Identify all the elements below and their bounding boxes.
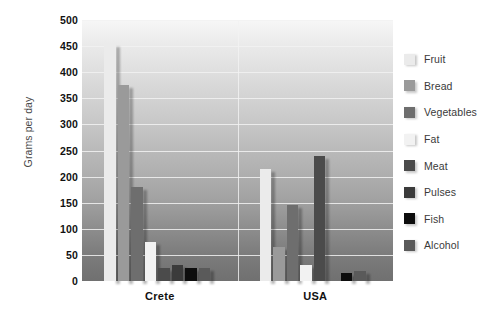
legend-item-meat[interactable]: Meat — [404, 152, 498, 179]
y-axis-tick-label: 50 — [4, 249, 78, 261]
legend-item-alcohol[interactable]: Alcohol — [404, 232, 498, 259]
bar-face — [314, 156, 326, 281]
legend-label: Fat — [424, 133, 439, 145]
legend-swatch-icon — [404, 187, 415, 198]
bar-face — [104, 44, 116, 282]
bar-fat-crete — [145, 242, 157, 281]
group-separator — [238, 20, 239, 281]
legend: FruitBreadVegetablesFatMeatPulsesFishAlc… — [404, 46, 498, 259]
legend-label: Fish — [424, 213, 444, 225]
bar-alcohol-usa — [354, 271, 366, 281]
bar-fat-usa — [300, 265, 312, 281]
legend-swatch-face — [404, 107, 415, 118]
bar-vegetables-usa — [287, 205, 299, 281]
y-axis-tick-label: 500 — [4, 14, 78, 26]
bar-face — [145, 242, 157, 281]
y-axis-tick-label: 0 — [4, 275, 78, 287]
legend-label: Pulses — [424, 186, 456, 198]
plot-area — [82, 20, 393, 281]
bar-face — [300, 265, 312, 281]
bar-face — [172, 265, 184, 281]
legend-swatch-face — [404, 187, 415, 198]
bar-fruit-usa — [260, 169, 272, 281]
bar-shadow — [325, 159, 329, 284]
y-axis-tick-label: 150 — [4, 197, 78, 209]
y-axis-ticks: 050100150200250300350400450500 — [0, 0, 78, 312]
legend-item-bread[interactable]: Bread — [404, 73, 498, 100]
bar-face — [158, 268, 170, 281]
legend-swatch-face — [404, 80, 415, 91]
bar-face — [273, 247, 285, 281]
legend-label: Vegetables — [424, 106, 477, 118]
legend-item-fruit[interactable]: Fruit — [404, 46, 498, 73]
bar-bread-usa — [273, 247, 285, 281]
bar-pulses-crete — [172, 265, 184, 281]
legend-label: Alcohol — [424, 239, 459, 251]
bar-fruit-crete — [104, 44, 116, 282]
legend-swatch-face — [404, 134, 415, 145]
legend-item-fish[interactable]: Fish — [404, 206, 498, 233]
y-axis-tick-label: 200 — [4, 171, 78, 183]
legend-item-fat[interactable]: Fat — [404, 126, 498, 153]
bar-alcohol-crete — [199, 268, 211, 281]
bar-fish-crete — [185, 268, 197, 281]
legend-label: Meat — [424, 160, 448, 172]
bar-face — [354, 271, 366, 281]
legend-swatch-face — [404, 240, 415, 251]
y-axis-tick-label: 250 — [4, 145, 78, 157]
bar-face — [260, 169, 272, 281]
legend-swatch-face — [404, 160, 415, 171]
y-axis-tick-label: 300 — [4, 118, 78, 130]
bar-face — [118, 85, 130, 281]
x-axis-label-crete: Crete — [145, 290, 175, 302]
legend-item-vegetables[interactable]: Vegetables — [404, 99, 498, 126]
y-axis-tick-label: 450 — [4, 40, 78, 52]
bar-face — [185, 268, 197, 281]
legend-item-pulses[interactable]: Pulses — [404, 179, 498, 206]
legend-label: Bread — [424, 80, 453, 92]
legend-swatch-icon — [404, 54, 415, 65]
bar-shadow — [210, 271, 214, 284]
legend-swatch-icon — [404, 160, 415, 171]
bar-bread-crete — [118, 85, 130, 281]
legend-label: Fruit — [424, 53, 446, 65]
legend-swatch-face — [404, 54, 415, 65]
bar-face — [131, 187, 143, 281]
bar-face — [199, 268, 211, 281]
y-axis-tick-label: 400 — [4, 66, 78, 78]
bar-face — [287, 205, 299, 281]
bar-fish-usa — [341, 273, 353, 281]
legend-swatch-face — [404, 213, 415, 224]
legend-swatch-icon — [404, 134, 415, 145]
bar-face — [341, 273, 353, 281]
legend-swatch-icon — [404, 107, 415, 118]
legend-swatch-icon — [404, 240, 415, 251]
y-axis-tick-label: 350 — [4, 92, 78, 104]
x-axis-label-usa: USA — [303, 290, 327, 302]
legend-swatch-icon — [404, 80, 415, 91]
bar-meat-usa — [314, 156, 326, 281]
bar-meat-crete — [158, 268, 170, 281]
y-axis-tick-label: 100 — [4, 223, 78, 235]
legend-swatch-icon — [404, 213, 415, 224]
bar-vegetables-crete — [131, 187, 143, 281]
bar-shadow — [366, 274, 370, 284]
bar-chart: Grams per day 05010015020025030035040045… — [0, 0, 500, 312]
